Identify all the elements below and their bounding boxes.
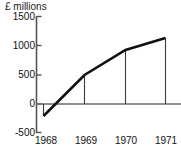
chart-container: £ millions 1500 1000 500 0 -500 1968 196… xyxy=(0,0,181,154)
chart-plot-area xyxy=(0,0,181,154)
